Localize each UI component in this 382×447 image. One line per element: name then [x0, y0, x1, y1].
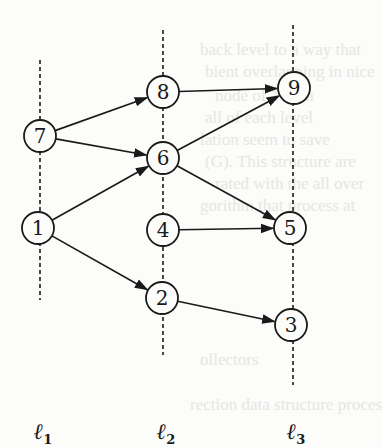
edge-6-to-9: [177, 96, 279, 150]
node-5-label: 5: [275, 213, 305, 243]
edge-7-to-8: [55, 98, 147, 131]
level-symbol: ℓ: [157, 418, 166, 444]
edge-6-to-5: [177, 166, 275, 220]
level-subscript: 2: [166, 432, 175, 447]
node-4-label: 4: [148, 215, 178, 245]
node-3-label: 3: [276, 310, 306, 340]
level-label-l1: ℓ1: [34, 418, 52, 447]
edge-2-to-3: [178, 301, 275, 321]
edge-4-to-5: [179, 228, 273, 229]
level-symbol: ℓ: [287, 418, 296, 444]
node-7-label: 7: [25, 121, 55, 151]
node-1-label: 1: [23, 213, 53, 243]
level-subscript: 1: [43, 432, 52, 447]
level-subscript: 3: [296, 432, 305, 447]
edge-7-to-6: [56, 139, 147, 155]
level-label-l3: ℓ3: [287, 418, 305, 447]
edge-1-to-6: [52, 166, 148, 220]
node-6-label: 6: [148, 143, 178, 173]
level-symbol: ℓ: [34, 418, 43, 444]
node-9-label: 9: [279, 73, 309, 103]
edge-1-to-2: [52, 236, 147, 290]
node-8-label: 8: [148, 77, 178, 107]
node-2-label: 2: [147, 283, 177, 313]
level-label-l2: ℓ2: [157, 418, 175, 447]
edge-8-to-9: [179, 89, 277, 92]
